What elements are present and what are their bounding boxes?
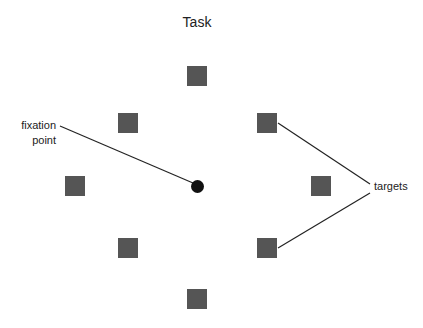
fixation-label: fixation point <box>8 118 56 148</box>
target-left <box>65 176 85 196</box>
fixation-pointer-line <box>60 126 193 183</box>
target-right <box>311 176 331 196</box>
targets-pointer-line-lower <box>278 193 370 248</box>
target-lower-right <box>257 238 277 258</box>
fixation-label-line1: fixation <box>8 118 56 133</box>
targets-label: targets <box>374 179 408 194</box>
target-top <box>187 66 207 86</box>
annotation-lines <box>0 0 423 328</box>
fixation-point <box>191 180 204 193</box>
fixation-label-line2: point <box>8 133 56 148</box>
target-lower-left <box>118 238 138 258</box>
target-bottom <box>187 289 207 309</box>
task-diagram: Task fixation point targets <box>0 0 423 328</box>
targets-pointer-line-upper <box>278 123 370 184</box>
target-upper-left <box>118 113 138 133</box>
target-upper-right <box>257 113 277 133</box>
